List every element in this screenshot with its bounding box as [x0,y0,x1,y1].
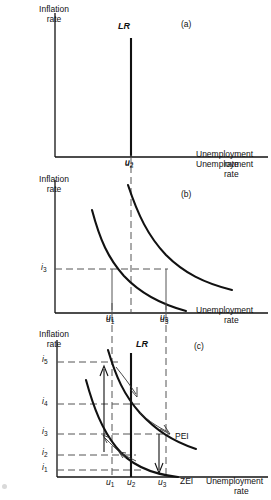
panel-c-tag: (c) [194,342,204,352]
panel-c-ytick-i5: i5 [42,355,48,367]
panel-b-ytick-i3: i3 [41,263,47,275]
panel-b-top-tick-u2: u2 [125,158,133,170]
panel-a-tag: (a) [181,20,191,30]
panel-b-y-axis-label: Inflation rate [28,175,80,194]
panel-a-lr-label: LR [118,22,130,32]
panel-c-y-axis-label: Inflation rate [28,330,80,349]
panel-c-zei-label: ZEI [180,477,193,487]
panel-b-x-axis-label: Unemployment rate [196,160,253,179]
panel-c-x-axis-label: Unemployment rate [206,477,263,496]
panel-b-curve-right [128,185,232,290]
panel-b-x-axis-label-bottom: Unemployment rate [196,306,253,325]
panel-c-ytick-i4: i4 [42,397,48,409]
panel-b-tag: (b) [181,190,191,200]
panel-c-ytick-i3: i3 [42,427,48,439]
panel-c-xtick-u1: u1 [106,478,114,490]
panel-c-ytick-i1: i1 [42,463,48,475]
panel-c-lr-label: LR [136,340,148,350]
panel-a-y-axis-label: Inflation rate [28,5,80,24]
panel-c-xtick-u3: u3 [158,478,166,490]
panel-c-top-tick-u1: u1 [106,313,114,325]
panel-c-ytick-i2: i2 [42,448,48,460]
scan-artifact [2,484,7,489]
panel-c-top-tick-u3: u3 [160,313,168,325]
panel-c-graphic [0,325,271,500]
phillips-curve-figure: Inflation rate LR (a) u2 Unemployment ra… [0,0,271,500]
panel-c-xtick-u2: u2 [127,478,135,490]
panel-c-pei-label: PEI [175,432,189,442]
panel-a-graphic [0,0,271,170]
